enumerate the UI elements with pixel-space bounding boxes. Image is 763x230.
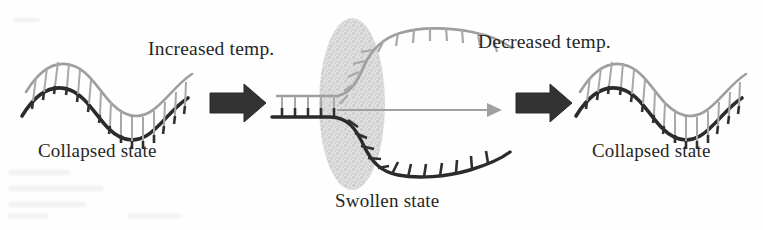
label-swollen-state: Swollen state: [335, 190, 439, 212]
rungs-left: [32, 62, 186, 149]
right-block-arrow-icon-1: [210, 84, 266, 122]
label-collapsed-state-left: Collapsed state: [38, 140, 157, 162]
label-collapsed-state-right: Collapsed state: [592, 140, 711, 162]
collapsed-state-left-structure: [22, 62, 192, 149]
label-increased-temp: Increased temp.: [148, 38, 274, 60]
swollen-state-structure: [272, 28, 512, 177]
label-decreased-temp: Decreased temp.: [478, 31, 611, 53]
diagram-figure: Increased temp. Decreased temp. Collapse…: [0, 0, 763, 230]
dark-strand-center: [272, 117, 510, 177]
rungs-right: [586, 62, 740, 149]
collapsed-state-right-structure: [576, 62, 746, 149]
right-block-arrow-icon-2: [516, 84, 572, 122]
